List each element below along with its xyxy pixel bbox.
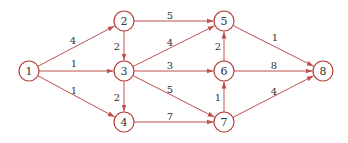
- edge-weight-3-7: 5: [167, 84, 173, 95]
- node-label: 3: [121, 65, 128, 78]
- node-label: 7: [221, 116, 228, 129]
- edge-weight-1-4: 1: [71, 85, 77, 96]
- edge-7-to-8: [233, 76, 314, 118]
- node-8: 8: [313, 61, 333, 81]
- node-label: 6: [221, 65, 228, 78]
- network-diagram: 411252435721184 12345678: [0, 0, 348, 143]
- node-label: 8: [320, 65, 327, 78]
- edge-weight-3-4: 2: [114, 92, 120, 103]
- edge-weight-2-5: 5: [167, 10, 173, 21]
- edge-weight-7-8: 4: [271, 86, 277, 97]
- node-2: 2: [114, 11, 134, 31]
- edge-3-to-7: [133, 76, 215, 118]
- edge-weight-1-2: 4: [70, 35, 76, 46]
- edge-weight-3-6: 3: [167, 60, 173, 71]
- edge-weight-7-6: 1: [215, 92, 221, 103]
- node-6: 6: [214, 61, 234, 81]
- edge-weight-3-5: 4: [167, 37, 173, 48]
- node-label: 4: [121, 116, 128, 129]
- node-label: 1: [26, 65, 33, 78]
- edge-weight-4-7: 7: [167, 111, 173, 122]
- node-7: 7: [214, 112, 234, 132]
- edge-weight-5-8: 1: [272, 32, 278, 43]
- node-1: 1: [19, 61, 39, 81]
- edge-weight-6-8: 8: [271, 60, 277, 71]
- node-3: 3: [114, 61, 134, 81]
- edge-1-to-4: [38, 76, 115, 117]
- edge-3-to-5: [133, 26, 215, 67]
- edge-weight-6-5: 2: [215, 41, 221, 52]
- node-label: 2: [121, 15, 128, 28]
- edge-weights-layer: 411252435721184: [70, 10, 278, 122]
- edge-weight-1-3: 1: [71, 58, 77, 69]
- node-5: 5: [214, 11, 234, 31]
- node-4: 4: [114, 112, 134, 132]
- node-label: 5: [221, 15, 228, 28]
- edge-weight-2-3: 2: [114, 41, 120, 52]
